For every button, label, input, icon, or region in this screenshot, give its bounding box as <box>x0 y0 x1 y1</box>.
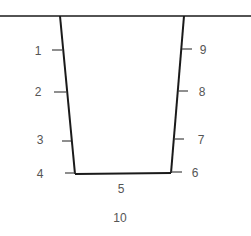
label-6: 6 <box>192 166 199 180</box>
label-1: 1 <box>35 44 42 58</box>
left-wall <box>60 16 75 174</box>
label-5: 5 <box>118 182 125 196</box>
trench-diagram: 1 2 3 4 5 6 7 8 9 10 <box>0 0 251 236</box>
label-8: 8 <box>199 85 206 99</box>
label-3: 3 <box>37 133 44 147</box>
point-labels: 1 2 3 4 5 6 7 8 9 10 <box>35 43 207 225</box>
label-10: 10 <box>113 211 127 225</box>
right-wall <box>171 16 184 173</box>
label-9: 9 <box>200 43 207 57</box>
label-4: 4 <box>37 167 44 181</box>
label-2: 2 <box>35 85 42 99</box>
trench-bottom <box>75 173 171 174</box>
label-7: 7 <box>198 133 205 147</box>
